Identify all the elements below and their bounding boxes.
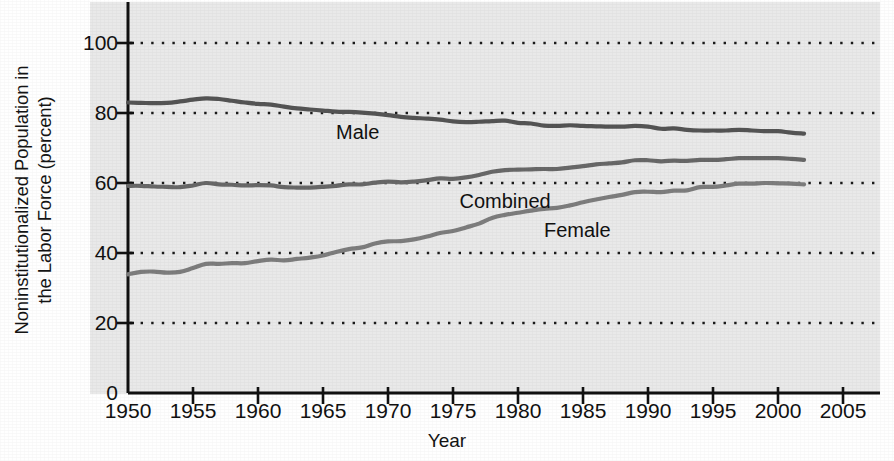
data-series-group	[128, 98, 804, 274]
x-axis-title: Year	[0, 430, 894, 452]
x-tick-label-1970: 1970	[365, 399, 412, 423]
x-tick-label-1975: 1975	[430, 399, 477, 423]
x-tick-label-1995: 1995	[690, 399, 737, 423]
series-label-male: Male	[336, 121, 379, 144]
x-tick-label-1990: 1990	[625, 399, 672, 423]
x-tick-label-2005: 2005	[820, 399, 867, 423]
x-tick-label-1985: 1985	[560, 399, 607, 423]
series-line-male	[128, 98, 804, 133]
x-tick-label-1980: 1980	[495, 399, 542, 423]
chart-figure: Noninstitutionalized Population in the L…	[0, 0, 894, 461]
x-tick-label-1950: 1950	[105, 399, 152, 423]
x-tick-label-2000: 2000	[755, 399, 802, 423]
x-tick-label-1960: 1960	[235, 399, 282, 423]
chart-canvas	[0, 0, 894, 461]
x-tick-label-1955: 1955	[170, 399, 217, 423]
series-label-combined: Combined	[460, 190, 551, 213]
x-tick-label-1965: 1965	[300, 399, 347, 423]
series-label-female: Female	[544, 219, 611, 242]
